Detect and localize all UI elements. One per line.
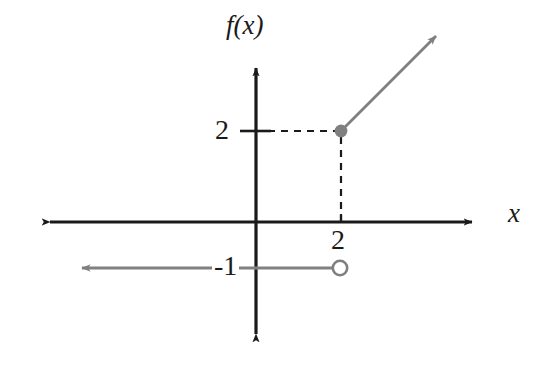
- open-point-marker: [333, 261, 347, 275]
- y-axis-label: f(x): [226, 12, 263, 39]
- x-tick-label-2: 2: [331, 226, 345, 254]
- x-axis-label: x: [508, 200, 520, 227]
- piecewise-function-figure: f(x) x 2 2 -1: [0, 0, 557, 369]
- graph-canvas: [0, 0, 557, 369]
- curve-branch-right-ray: [344, 36, 436, 128]
- closed-point-marker: [335, 125, 348, 138]
- y-tick-label-2: 2: [215, 116, 229, 144]
- y-value-label-neg1: -1: [212, 252, 239, 280]
